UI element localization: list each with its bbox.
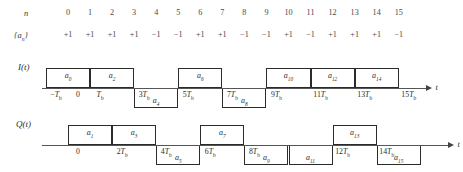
index-value: 11 <box>307 8 315 17</box>
index-value: 7 <box>220 8 224 17</box>
index-value: 2 <box>110 8 114 17</box>
index-value: 0 <box>66 8 70 17</box>
pulse-symbol: a11 <box>290 153 332 162</box>
pulse-symbol: a10 <box>267 71 309 80</box>
bit-value: +1 <box>350 30 359 39</box>
waveform-pulse: a14 <box>355 68 399 88</box>
axis-arrow-icon <box>426 85 432 91</box>
axis-tick-label: 0 <box>76 90 80 99</box>
bit-value: +1 <box>130 30 139 39</box>
index-value: 1 <box>88 8 92 17</box>
axis-tick-label: 3Tb <box>139 90 150 99</box>
index-value: 13 <box>351 8 359 17</box>
axis-tick-label: 11Tb <box>313 90 328 99</box>
axis-tick-label: 9Tb <box>271 90 282 99</box>
bit-value: +1 <box>284 30 293 39</box>
waveform-pulse: a1 <box>68 125 112 145</box>
bit-value: +1 <box>218 30 227 39</box>
bit-value: +1 <box>196 30 205 39</box>
time-axis <box>42 145 450 146</box>
axis-tick-label: −Tb <box>50 90 61 99</box>
figure-canvas: n 0123456789101112131415 {an} +1+1+1+1−1… <box>0 0 463 172</box>
waveform-pulse: a12 <box>311 68 355 88</box>
index-value: 8 <box>242 8 246 17</box>
pulse-symbol: a14 <box>356 71 398 80</box>
bit-value: +1 <box>64 30 73 39</box>
axis-arrow-icon <box>448 142 454 148</box>
axis-tick-label: 7Tb <box>227 90 238 99</box>
index-value: 14 <box>373 8 381 17</box>
bit-value: −1 <box>152 30 161 39</box>
pulse-symbol: a13 <box>334 128 376 137</box>
pulse-symbol: a0 <box>47 71 89 80</box>
axis-tick-label: 5Tb <box>183 90 194 99</box>
axis-tick-label: 6Tb <box>205 147 216 156</box>
waveform-pulse: a0 <box>46 68 90 88</box>
index-value: 12 <box>329 8 337 17</box>
bit-value: +1 <box>108 30 117 39</box>
waveform-pulse: a13 <box>333 125 377 145</box>
pulse-symbol: a2 <box>91 71 133 80</box>
axis-tick-label: 2Tb <box>117 147 128 156</box>
axis-tick-label: 14Tb <box>379 147 394 156</box>
axis-tick-label: Tb <box>97 90 104 99</box>
bit-row-label: {an} <box>14 30 28 40</box>
bit-value: −1 <box>240 30 249 39</box>
pulse-symbol: a1 <box>69 128 111 137</box>
bit-value: −1 <box>262 30 271 39</box>
waveform-pulse: a3 <box>112 125 156 145</box>
waveform-pulse: a2 <box>90 68 134 88</box>
bit-value: −1 <box>306 30 315 39</box>
bit-value: +1 <box>86 30 95 39</box>
axis-tick-label: 12Tb <box>335 147 350 156</box>
index-value: 3 <box>132 8 136 17</box>
axis-tick-label: 15Tb <box>401 90 416 99</box>
axis-tick-label: 13Tb <box>357 90 372 99</box>
pulse-symbol: a12 <box>312 71 354 80</box>
bit-row-label-open: {a <box>14 30 22 40</box>
waveform-pulse: a7 <box>200 125 244 145</box>
bit-value: −1 <box>394 30 403 39</box>
axis-variable-label: t <box>435 82 437 92</box>
index-row-label: n <box>24 8 28 18</box>
bit-value: +1 <box>328 30 337 39</box>
axis-tick-label: 4Tb <box>161 147 172 156</box>
inphase-signal-label: I(t) <box>18 62 30 72</box>
waveform-pulse: a10 <box>266 68 310 88</box>
time-axis <box>42 88 428 89</box>
waveform-pulse: a6 <box>178 68 222 88</box>
pulse-symbol: a6 <box>179 71 221 80</box>
index-value: 10 <box>284 8 292 17</box>
index-value: 9 <box>264 8 268 17</box>
pulse-symbol: a7 <box>201 128 243 137</box>
bit-value: +1 <box>372 30 381 39</box>
bit-value: −1 <box>174 30 183 39</box>
index-value: 5 <box>176 8 180 17</box>
bit-row-label-close: } <box>24 30 27 40</box>
waveform-pulse: a11 <box>289 145 333 165</box>
quadrature-signal-label: Q(t) <box>16 119 31 129</box>
axis-variable-label: t <box>457 139 459 149</box>
index-value: 6 <box>198 8 202 17</box>
axis-tick-label: 0 <box>76 147 80 156</box>
index-value: 4 <box>154 8 158 17</box>
index-value: 15 <box>395 8 403 17</box>
axis-tick-label: 8Tb <box>249 147 260 156</box>
pulse-symbol: a3 <box>113 128 155 137</box>
